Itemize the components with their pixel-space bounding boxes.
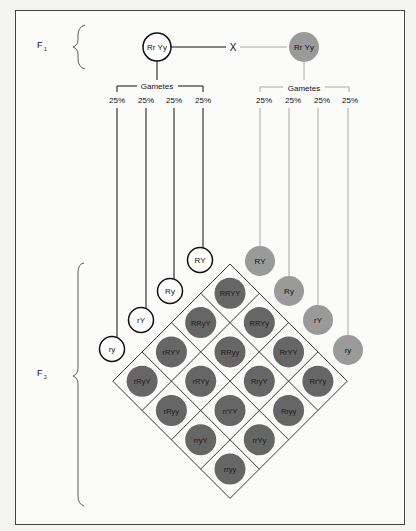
offspring-genotype: rRYy (192, 377, 209, 386)
gametes-label-left: Gametes (141, 82, 173, 91)
f2-label: F (37, 368, 43, 378)
gamete-bracket-left-b (178, 86, 203, 92)
parent-genotype-right: Rr Yy (294, 43, 314, 52)
offspring-genotype: RRYy (250, 319, 270, 328)
offspring-genotype: RrYY (280, 348, 298, 357)
f2-brace (73, 263, 84, 506)
offspring-genotype: rryy (224, 465, 237, 474)
gamete-percent-right: 25% (256, 96, 272, 105)
gamete-percent-right: 25% (314, 96, 330, 105)
gamete-label-left: Ry (165, 287, 175, 296)
gamete-label-right: RY (255, 257, 267, 266)
offspring-genotype: rRYY (163, 348, 181, 357)
offspring-genotype: RryY (251, 377, 268, 386)
offspring-genotype: RrYy (310, 377, 327, 386)
gamete-label-right: ry (345, 346, 352, 355)
gamete-bracket-right-a (260, 87, 283, 92)
f2-subscript: 2 (44, 374, 47, 380)
gamete-percent-right: 25% (285, 96, 301, 105)
gamete-label-left: rY (137, 316, 146, 325)
offspring-genotype: rrYy (252, 436, 266, 445)
f1-label: F (37, 40, 43, 50)
f1-brace (73, 25, 85, 69)
cross-symbol: X (230, 42, 237, 53)
gametes-label-right: Gametes (288, 84, 320, 93)
gamete-label-left: ry (109, 345, 116, 354)
gamete-bracket-left-a (117, 86, 137, 92)
offspring-genotype: RRyy (221, 348, 240, 357)
gamete-label-left: RY (195, 256, 207, 265)
offspring-genotype: rryY (194, 436, 208, 445)
punnett-diagram: F1F2XRr YyRr YyGametesGametes25%25%25%25… (0, 0, 416, 531)
offspring-genotype: Rryy (281, 407, 297, 416)
gamete-percent-left: 25% (166, 96, 182, 105)
offspring-genotype: rrYY (223, 407, 238, 416)
gamete-percent-left: 25% (138, 96, 154, 105)
offspring-genotype: rRyy (164, 407, 180, 416)
parent-genotype-left: Rr Yy (147, 43, 167, 52)
gamete-label-right: rY (314, 316, 323, 325)
offspring-genotype: RRyY (191, 319, 211, 328)
gamete-label-right: Ry (284, 287, 294, 296)
offspring-genotype: rRyY (134, 377, 151, 386)
gamete-bracket-right-b (325, 87, 349, 92)
f1-subscript: 1 (44, 46, 47, 52)
gamete-percent-right: 25% (342, 96, 358, 105)
gamete-percent-left: 25% (195, 96, 211, 105)
gamete-percent-left: 25% (109, 96, 125, 105)
offspring-genotype: RRYY (220, 289, 241, 298)
